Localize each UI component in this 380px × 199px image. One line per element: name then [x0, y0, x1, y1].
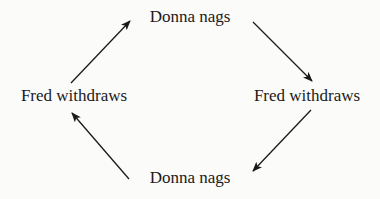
arrow-left-to-top: [71, 21, 130, 83]
arrow-top-to-right: [253, 22, 312, 81]
cycle-arrows: [0, 0, 380, 199]
arrow-right-to-bottom: [253, 110, 311, 171]
arrow-bottom-to-left: [72, 113, 129, 179]
